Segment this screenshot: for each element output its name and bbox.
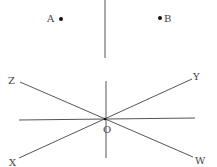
ray-x-label: X — [9, 157, 17, 167]
point-a-dot — [59, 17, 63, 21]
center-o-dot — [104, 118, 107, 121]
geometry-diagram: A B O Z Y X W — [0, 0, 217, 167]
point-b-dot — [158, 16, 162, 20]
ray-w-label: W — [195, 155, 206, 166]
ray-y-label: Y — [192, 71, 200, 82]
point-b-label: B — [164, 13, 171, 24]
center-o-label: O — [103, 124, 111, 135]
ray-z-label: Z — [8, 75, 15, 86]
point-a-label: A — [46, 13, 55, 24]
